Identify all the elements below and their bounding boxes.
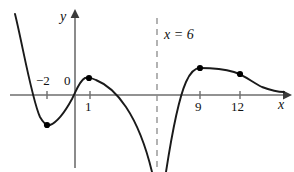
x-axis-label: x	[278, 98, 284, 112]
marked-point-local-max-9	[197, 65, 203, 71]
marked-point-local-min	[44, 122, 50, 128]
function-graph-figure: y x x = 6 −2 0 1 9 12	[0, 0, 294, 172]
marked-point-inflection-12	[237, 71, 243, 77]
y-axis-arrowhead	[71, 9, 80, 18]
tick-label-nine: 9	[195, 100, 202, 113]
tick-label-twelve: 12	[231, 100, 244, 113]
tick-label-neg2: −2	[36, 74, 50, 87]
curve-branch-left	[15, 14, 152, 172]
asymptote-label: x = 6	[164, 28, 194, 42]
tick-label-one: 1	[85, 100, 92, 113]
curve-branch-right	[166, 68, 284, 172]
origin-label: 0	[64, 74, 71, 87]
marked-point-local-max-1	[86, 75, 92, 81]
y-axis-label: y	[60, 10, 66, 24]
